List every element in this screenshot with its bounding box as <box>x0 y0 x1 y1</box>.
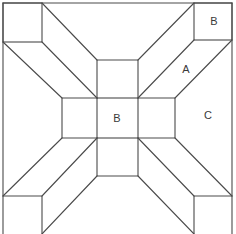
label-corner-b: B <box>210 16 217 27</box>
diag-tr-outer-1 <box>138 3 194 60</box>
diag-tl-outer-1 <box>42 3 97 60</box>
diag-br-middle <box>138 138 194 196</box>
label-diagonal-a: A <box>182 64 189 75</box>
diag-br-outer-1 <box>175 138 232 196</box>
arm-right <box>138 98 175 138</box>
arm-left <box>62 98 97 138</box>
diag-bl-outer-2 <box>42 176 97 234</box>
diag-tl-outer-2 <box>3 42 62 98</box>
diag-br-outer-2 <box>138 176 194 234</box>
diag-bl-outer-1 <box>3 138 62 196</box>
label-center-b: B <box>113 113 120 124</box>
corner-square-bottom-right <box>194 196 232 234</box>
arm-bottom <box>97 138 138 176</box>
diag-bl-middle <box>42 138 97 196</box>
diag-tl-middle <box>42 42 97 98</box>
label-side-c: C <box>204 110 212 121</box>
arm-top <box>97 60 138 98</box>
corner-square-top-left <box>3 3 42 42</box>
corner-square-bottom-left <box>3 196 42 234</box>
